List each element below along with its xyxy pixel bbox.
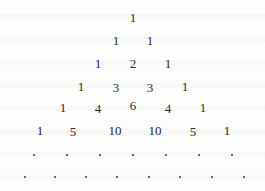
triangle-cell: 5 [190, 125, 197, 139]
triangle-cell: 1 [113, 34, 120, 48]
ellipsis-dot [165, 154, 167, 156]
ellipsis-dot [33, 154, 35, 156]
triangle-cell: 1 [182, 80, 189, 94]
pascal-triangle: 1 1 1 1 2 1 1 3 3 1 1 4 6 4 1 [0, 0, 265, 191]
triangle-cell: 3 [113, 81, 120, 95]
triangle-cell: 1 [78, 80, 85, 94]
ellipsis-dot [99, 154, 101, 156]
triangle-cell: 1 [165, 57, 172, 71]
ellipsis-dot [231, 154, 233, 156]
triangle-cell: 10 [149, 124, 162, 138]
triangle-cell: 5 [70, 125, 77, 139]
triangle-cell: 1 [224, 124, 231, 138]
ellipsis-dot [148, 176, 150, 178]
triangle-cell: 1 [95, 57, 102, 71]
triangle-cell: 1 [37, 124, 44, 138]
ellipsis-dot [116, 176, 118, 178]
triangle-cell: 10 [109, 124, 122, 138]
ellipsis-dot [198, 154, 200, 156]
triangle-cell: 2 [130, 57, 137, 71]
ellipsis-dot [243, 176, 245, 178]
triangle-cell: 3 [147, 81, 154, 95]
ellipsis-dot [66, 154, 68, 156]
triangle-cell: 1 [200, 101, 207, 115]
triangle-cell: 6 [130, 99, 137, 113]
ellipsis-dot [54, 176, 56, 178]
triangle-cell: 1 [147, 34, 154, 48]
continuation-row-8 [0, 0, 265, 16]
triangle-cell: 4 [95, 102, 102, 116]
ellipsis-dot [179, 176, 181, 178]
triangle-cell: 1 [60, 101, 67, 115]
ellipsis-dot [132, 154, 134, 156]
page: 1 1 1 1 2 1 1 3 3 1 1 4 6 4 1 [0, 0, 265, 191]
triangle-cell: 4 [165, 102, 172, 116]
ellipsis-dot [24, 176, 26, 178]
ellipsis-dot [211, 176, 213, 178]
ellipsis-dot [85, 176, 87, 178]
